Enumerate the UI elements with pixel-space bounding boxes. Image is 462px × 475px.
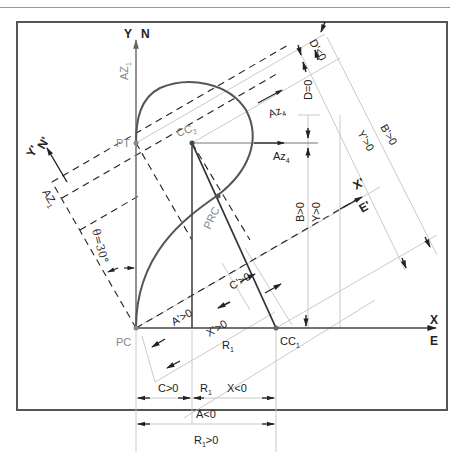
r1-total-label: R1>0 bbox=[194, 434, 218, 448]
x-axis-label: X bbox=[430, 313, 438, 327]
y-label: Y>0 bbox=[310, 202, 322, 222]
theta-label-group: θ=30° bbox=[89, 227, 111, 265]
cc2-label-group: CC2 bbox=[175, 121, 198, 141]
geometry-diagram: Y N X E Y' N' X' E' PC PT CC1 CC2 PRC AZ… bbox=[0, 0, 462, 475]
b-label: B>0 bbox=[294, 202, 306, 222]
construction-lines bbox=[136, 34, 437, 452]
x-dim-label: X<0 bbox=[227, 382, 247, 394]
a-prime-label-group: A'>0 bbox=[169, 306, 194, 327]
d-label-group: D=0 bbox=[302, 80, 314, 101]
az4-prime-arrow bbox=[258, 90, 282, 103]
x-prime-label-group: X' bbox=[351, 175, 368, 193]
a-prime-label: A'>0 bbox=[169, 306, 194, 327]
y-prime-dim-label: Y'>0 bbox=[355, 128, 376, 153]
y-prime-arrow bbox=[402, 258, 406, 268]
c-dim-label: C>0 bbox=[158, 382, 179, 394]
pc-label: PC bbox=[116, 336, 131, 348]
y-axis-label: Y bbox=[124, 27, 132, 41]
d-label: D=0 bbox=[302, 80, 314, 101]
x-prime-dim-label: X'>0 bbox=[204, 317, 229, 338]
pc-point bbox=[134, 326, 139, 331]
n-prime-arrow bbox=[47, 148, 67, 182]
e-prime-label-group: E' bbox=[357, 198, 374, 216]
y-prime-dim-label-group: Y'>0 bbox=[355, 128, 376, 153]
d-prime-label-group: D'<0 bbox=[307, 37, 329, 63]
prc-label: PRC bbox=[201, 205, 222, 231]
x-prime-dim-arrow-1 bbox=[218, 302, 230, 308]
b-label-group: B>0 bbox=[294, 202, 306, 222]
d-prime-label: D'<0 bbox=[307, 37, 329, 63]
az4-prime-label-group: Az4 bbox=[267, 103, 288, 122]
b-prime-label: B'>0 bbox=[378, 122, 399, 147]
prc-point bbox=[216, 194, 221, 199]
cc2-label: CC2 bbox=[175, 121, 198, 141]
r1-label: R1 bbox=[222, 339, 234, 353]
x-prime-label: X' bbox=[351, 175, 368, 193]
cc1-point bbox=[274, 326, 279, 331]
a-dim-label: A<0 bbox=[196, 408, 216, 420]
theta-arrow-left bbox=[108, 268, 118, 272]
x-prime-dim-label-group: X'>0 bbox=[204, 317, 229, 338]
theta-label: θ=30° bbox=[89, 227, 111, 265]
pt-label: PT bbox=[116, 137, 130, 149]
r1-bottom-label: R1 bbox=[200, 382, 212, 396]
az1-label: AZ1 bbox=[118, 62, 132, 80]
d-prime-arrow-1 bbox=[298, 45, 301, 55]
d-prime-arrow-3 bbox=[321, 22, 325, 32]
az4-prime-label: Az4 bbox=[267, 103, 288, 122]
az4-label: Az4 bbox=[273, 150, 290, 164]
cc2-point bbox=[190, 141, 195, 146]
y-label-group: Y>0 bbox=[310, 202, 322, 222]
b-prime-label-group: B'>0 bbox=[378, 122, 399, 147]
r1-dim-arrow bbox=[167, 361, 180, 368]
e-axis-label: E bbox=[430, 334, 438, 348]
e-prime-label: E' bbox=[357, 198, 374, 216]
a-prime-dim-arrow bbox=[152, 339, 165, 347]
n-axis-label: N bbox=[141, 27, 150, 41]
cc1-label: CC1 bbox=[280, 335, 300, 349]
prc-label-group: PRC bbox=[201, 205, 222, 231]
radius-cc2-cc1 bbox=[192, 143, 276, 328]
reverse-curve bbox=[136, 82, 253, 328]
pt-point bbox=[134, 141, 139, 146]
az1-label-group: AZ1 bbox=[118, 62, 132, 80]
